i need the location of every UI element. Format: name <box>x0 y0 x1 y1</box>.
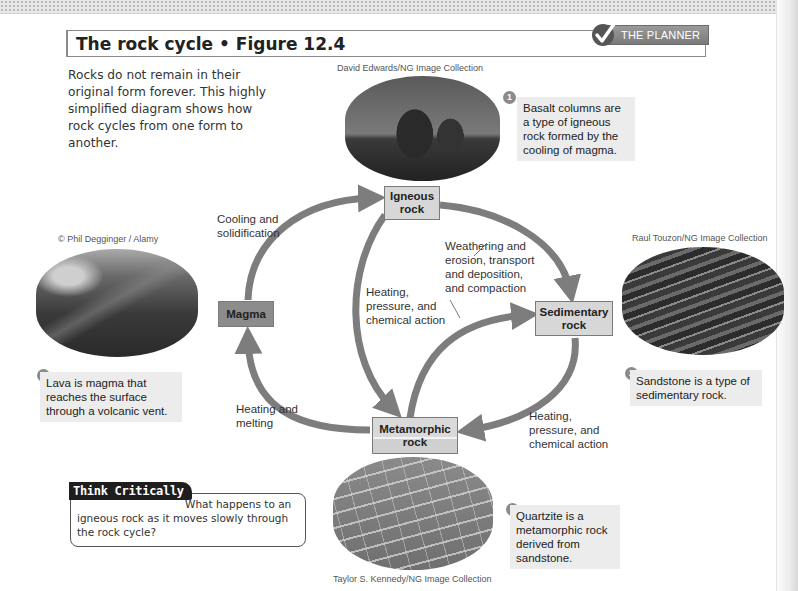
box-igneous-rock: Igneous rock <box>384 186 440 220</box>
photo-credit-lava: © Phil Degginger / Alamy <box>58 234 158 244</box>
label-igneous-to-metamorphic: Heating, pressure, and chemical action <box>366 285 446 327</box>
label-heating-melting: Heating and melting <box>236 402 306 430</box>
callout-number-1: 1 <box>503 91 516 104</box>
label-cooling-solidification: Cooling and solidification <box>217 212 297 240</box>
photo-quartzite <box>333 457 493 570</box>
photo-basalt-columns <box>345 76 500 181</box>
callout-basalt: Basalt columns are a type of igneous roc… <box>517 97 635 161</box>
photo-sandstone <box>622 247 784 355</box>
leader-line <box>450 300 460 318</box>
think-critically-question: What happens to an igneous rock as it mo… <box>77 494 299 539</box>
photo-credit-sandstone: Raul Touzon/NG Image Collection <box>632 233 767 243</box>
checkmark-icon <box>592 24 614 46</box>
box-metamorphic-rock: Metamorphic rock <box>372 417 458 454</box>
photo-lava-vent <box>36 249 198 357</box>
photo-credit-quartzite: Taylor S. Kennedy/NG Image Collection <box>333 574 492 584</box>
callout-lava: Lava is magma that reaches the surface t… <box>40 372 182 422</box>
box-magma: Magma <box>218 301 274 327</box>
callout-quartzite: Quartzite is a metamorphic rock derived … <box>510 505 620 569</box>
think-critically-box: Think Critically What happens to an igne… <box>70 493 306 547</box>
photo-credit-igneous: David Edwards/NG Image Collection <box>337 63 483 73</box>
label-sedimentary-to-metamorphic: Heating, pressure, and chemical action <box>529 409 619 451</box>
box-sedimentary-rock: Sedimentary rock <box>535 301 613 336</box>
callout-sandstone: Sandstone is a type of sedimentary rock. <box>630 370 762 406</box>
label-weathering-erosion: Weathering and erosion, transport and de… <box>445 239 535 295</box>
think-critically-tag: Think Critically <box>69 482 192 500</box>
